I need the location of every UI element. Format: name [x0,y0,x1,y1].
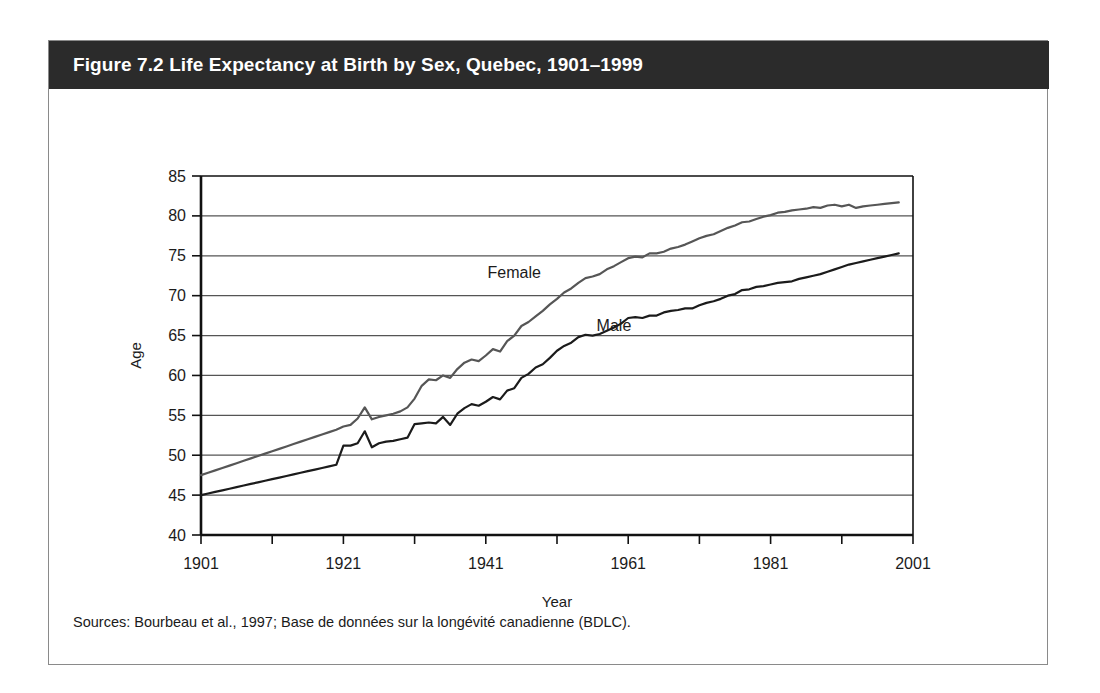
figure-container: Figure 7.2 Life Expectancy at Birth by S… [48,40,1048,665]
chart-plot-area: 40455055606570758085 1901192119411961198… [49,89,1049,609]
y-tick-label: 70 [168,287,186,304]
y-tick-label: 75 [168,247,186,264]
line-chart: 40455055606570758085 1901192119411961198… [49,89,1049,609]
gridlines-group [201,216,913,495]
x-tick-label: 1961 [610,555,646,572]
plot-frame [201,176,913,535]
series-annotation-male: Male [597,317,632,334]
series-annotation-female: Female [488,264,541,281]
y-tick-label: 50 [168,447,186,464]
y-tick-label: 80 [168,207,186,224]
x-tick-label: 2001 [895,555,931,572]
data-series-group [201,202,899,495]
figure-title: Figure 7.2 Life Expectancy at Birth by S… [73,54,643,76]
x-axis-title: Year [542,593,572,609]
y-tick-label: 65 [168,327,186,344]
series-line-female [201,202,899,475]
y-axis-ticks-group: 40455055606570758085 [168,168,201,544]
y-axis-title: Age [127,342,144,369]
x-tick-label: 1941 [468,555,504,572]
series-line-male [201,253,899,495]
x-tick-label: 1901 [183,555,219,572]
y-tick-label: 40 [168,527,186,544]
y-tick-label: 55 [168,407,186,424]
x-tick-label: 1981 [753,555,789,572]
y-tick-label: 85 [168,168,186,185]
series-annotations-group: FemaleMale [488,264,632,334]
x-axis-ticks-group: 190119211941196119812001 [183,535,931,572]
y-tick-label: 45 [168,487,186,504]
sources-note: Sources: Bourbeau et al., 1997; Base de … [73,614,631,630]
figure-header-bar: Figure 7.2 Life Expectancy at Birth by S… [49,41,1049,89]
y-tick-label: 60 [168,367,186,384]
x-tick-label: 1921 [326,555,362,572]
